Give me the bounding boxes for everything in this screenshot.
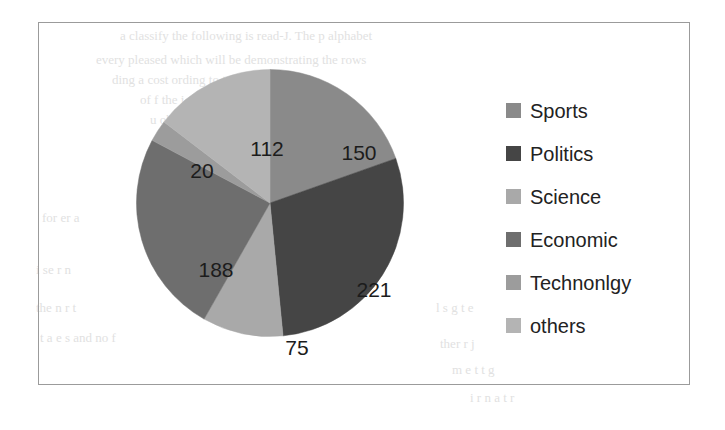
legend-label: Technonlgy <box>530 273 631 293</box>
pie-slice-value-others: 112 <box>250 137 283 161</box>
chart-legend: SportsPoliticsScienceEconomicTechnonlgyo… <box>506 89 681 347</box>
legend-item-sports[interactable]: Sports <box>506 89 681 132</box>
pie-slice-value-sports: 150 <box>341 141 376 165</box>
legend-item-others[interactable]: others <box>506 304 681 347</box>
legend-swatch-icon <box>506 275 521 290</box>
pie-slice-value-economic: 188 <box>198 258 233 282</box>
pie-slice-value-politics: 221 <box>356 278 391 302</box>
legend-swatch-icon <box>506 103 521 118</box>
legend-swatch-icon <box>506 232 521 247</box>
legend-item-economic[interactable]: Economic <box>506 218 681 261</box>
legend-label: Sports <box>530 101 588 121</box>
legend-item-science[interactable]: Science <box>506 175 681 218</box>
legend-label: Science <box>530 187 601 207</box>
pie-chart-plot-area: 1502217518820112 SportsPoliticsScienceEc… <box>39 23 689 384</box>
legend-swatch-icon <box>506 189 521 204</box>
legend-item-technonlgy[interactable]: Technonlgy <box>506 261 681 304</box>
legend-label: Economic <box>530 230 618 250</box>
chart-frame: 1502217518820112 SportsPoliticsScienceEc… <box>38 22 690 385</box>
legend-swatch-icon <box>506 318 521 333</box>
legend-label: Politics <box>530 144 593 164</box>
pie-slice-value-science: 75 <box>285 336 308 360</box>
pie-slice-value-technonlgy: 20 <box>190 159 213 183</box>
legend-label: others <box>530 316 586 336</box>
background-text-line: i r n a t r <box>470 390 514 406</box>
legend-item-politics[interactable]: Politics <box>506 132 681 175</box>
legend-swatch-icon <box>506 146 521 161</box>
